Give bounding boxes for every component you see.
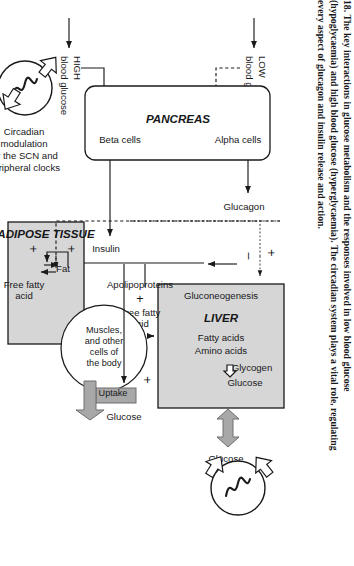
insulin-branch: Insulin xyxy=(68,160,204,263)
uptake-glucose-label: Glucose xyxy=(106,411,141,422)
apolipoproteins-label: Apolipoproteins xyxy=(107,279,173,290)
muscles-line4: the body xyxy=(87,358,122,368)
glucagon-liver-dotted xyxy=(130,221,260,256)
diagram-canvas: .lbl{font-family:"Liberation Sans",sans-… xyxy=(0,0,300,566)
pancreas-beta-cells-label: Beta cells xyxy=(99,134,141,145)
glucagon-branch: Glucagon xyxy=(130,160,280,221)
circadian-clock-top: Circadian modulation by the SCN and peri… xyxy=(0,51,64,173)
liver-fatty-acids-label: Fatty acids xyxy=(198,332,245,343)
insulin-label: Insulin xyxy=(92,243,120,254)
liver-box: LIVER Gluconeogenesis Fatty acids Amino … xyxy=(158,284,284,408)
figure-caption-block: 18. The key interactions in glucose meta… xyxy=(292,0,354,560)
liver-glycogen-label: Glycogen xyxy=(232,362,273,373)
figure-page: .lbl{font-family:"Liberation Sans",sans-… xyxy=(0,0,354,566)
circadian-label-line2: modulation xyxy=(1,138,48,149)
muscles-line1: Muscles, xyxy=(86,325,122,335)
caption-line-3: every aspect of glucagon and insulin rel… xyxy=(314,0,327,556)
circadian-clock-bottom xyxy=(201,451,278,515)
liver-plus-sign: + xyxy=(264,249,278,256)
muscles-line3: cells of xyxy=(90,347,119,357)
low-label-line1: LOW xyxy=(257,56,268,79)
glucose-metabolism-diagram: .lbl{font-family:"Liberation Sans",sans-… xyxy=(0,0,300,566)
uptake-label: Uptake xyxy=(99,388,128,398)
muscles-line2: and other xyxy=(85,336,123,346)
liver-gluconeogenesis-label: Gluconeogenesis xyxy=(184,290,258,301)
liver-title: LIVER xyxy=(204,311,239,324)
high-label-line2: blood glucose xyxy=(59,56,70,115)
adipose-title: ADIPOSE TISSUE xyxy=(0,227,96,240)
glucagon-label: Glucagon xyxy=(223,201,264,212)
circadian-label-line3: by the SCN and xyxy=(0,150,58,161)
glucose-double-arrow xyxy=(217,409,239,447)
adipose-ffa-line2: acid xyxy=(15,290,33,301)
pancreas-title: PANCREAS xyxy=(146,112,210,125)
input-high-blood-glucose: HIGH blood glucose xyxy=(59,18,83,115)
liver-amino-acids-label: Amino acids xyxy=(195,345,247,356)
glucagon-to-liver: + xyxy=(130,221,278,276)
muscles-cells-node: Muscles, and other cells of the body xyxy=(61,305,147,391)
caption-line-1: 18. The key interactions in glucose meta… xyxy=(341,0,354,556)
adipose-ffa-line1: Free fatty xyxy=(4,279,45,290)
uptake-plus-sign: + xyxy=(140,376,154,383)
figure-caption: 18. The key interactions in glucose meta… xyxy=(314,0,354,556)
circadian-label-line1: Circadian xyxy=(4,126,45,137)
pancreas-alpha-cells-label: Alpha cells xyxy=(215,134,262,145)
caption-line-2: (hypoglycaemia) and high blood glucose (… xyxy=(328,0,341,556)
pancreas-box: PANCREAS Alpha cells Beta cells xyxy=(85,86,270,160)
adipose-plus-bottom: + xyxy=(26,245,40,252)
liver-glucose-label: Glucose xyxy=(227,377,262,388)
insulin-to-liver: – xyxy=(208,253,256,264)
liver-minus-sign: – xyxy=(242,253,256,260)
liver-glucose-exchange: Glucose xyxy=(208,409,243,464)
lipoprotein-plus-sign: + xyxy=(136,292,143,306)
circadian-label-line4: peripheral clocks xyxy=(0,162,60,173)
